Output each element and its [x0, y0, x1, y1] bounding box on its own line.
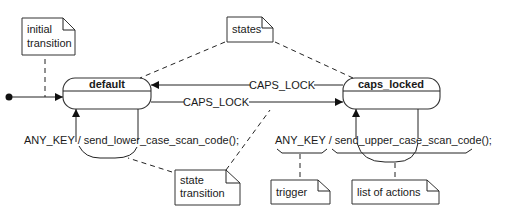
state-caps-locked[interactable]: caps_locked	[343, 78, 440, 109]
state-default[interactable]: default	[63, 78, 151, 109]
transition-label: CAPS_LOCK	[183, 96, 250, 108]
transition-label: ANY_KEY / send_lower_case_scan_code();	[24, 134, 239, 146]
transition-label: ANY_KEY / send_upper_case_scan_code();	[275, 134, 492, 146]
brace-actions	[332, 149, 472, 179]
note-text: list of actions	[357, 186, 421, 198]
note-states: states	[140, 17, 353, 78]
note-text: state	[180, 174, 204, 186]
state-name: caps_locked	[358, 78, 424, 90]
note-text: transition	[180, 187, 225, 199]
initial-transition	[6, 94, 64, 101]
transition-default-to-caps: CAPS_LOCK	[151, 96, 343, 108]
initial-pseudostate-icon	[6, 94, 13, 101]
note-trigger: trigger	[271, 180, 330, 204]
note-text: initial	[27, 23, 52, 35]
state-name: default	[89, 78, 125, 90]
note-list-of-actions: list of actions	[352, 180, 439, 204]
note-text: states	[232, 23, 262, 35]
transition-label: CAPS_LOCK	[249, 79, 316, 91]
note-text: trigger	[276, 186, 308, 198]
transition-caps-to-default: CAPS_LOCK	[151, 79, 343, 91]
brace-trigger	[277, 149, 327, 179]
state-diagram: initial transition default caps_locked C…	[0, 0, 505, 217]
self-transition-default: ANY_KEY / send_lower_case_scan_code();	[24, 109, 239, 158]
note-state-transition: state transition	[128, 110, 270, 205]
self-transition-caps-locked: ANY_KEY / send_upper_case_scan_code();	[275, 109, 492, 162]
note-text: transition	[27, 37, 72, 49]
